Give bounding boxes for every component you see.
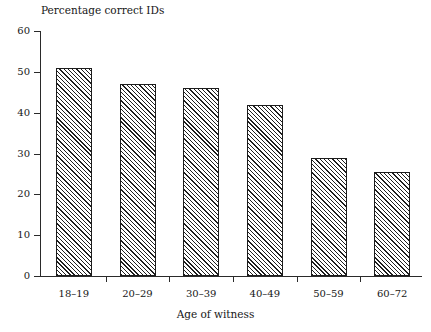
x-axis-tick bbox=[360, 277, 361, 282]
x-axis-category-label: 50–59 bbox=[297, 287, 361, 300]
y-axis-tick-label: 60 bbox=[17, 24, 30, 37]
y-axis-line bbox=[40, 31, 41, 277]
bar bbox=[247, 105, 283, 277]
x-axis-line bbox=[40, 276, 422, 277]
x-axis-category-label: 20–29 bbox=[106, 287, 170, 300]
x-axis-category-label: 18–19 bbox=[42, 287, 106, 300]
bar bbox=[374, 172, 410, 276]
y-axis-tick: 50 bbox=[34, 72, 40, 73]
bar bbox=[120, 84, 156, 276]
plot-area: 0102030405060 18–1920–2930–3940–4950–596… bbox=[40, 31, 422, 277]
y-axis-tick: 60 bbox=[34, 31, 40, 32]
x-axis-tick bbox=[106, 277, 107, 282]
x-axis-category-label: 60–72 bbox=[360, 287, 424, 300]
y-axis-tick-label: 10 bbox=[17, 228, 30, 241]
y-axis-tick: 20 bbox=[34, 194, 40, 195]
x-axis-tick bbox=[233, 277, 234, 282]
x-axis-tick bbox=[169, 277, 170, 282]
y-axis-tick-label: 20 bbox=[17, 187, 30, 200]
bar bbox=[183, 88, 219, 276]
y-axis-tick: 30 bbox=[34, 154, 40, 155]
y-axis-tick-label: 30 bbox=[17, 147, 30, 160]
x-axis-tick bbox=[297, 277, 298, 282]
y-axis-tick: 10 bbox=[34, 235, 40, 236]
y-axis-tick-label: 40 bbox=[17, 106, 30, 119]
bar-chart-figure: Percentage correct IDs 0102030405060 18–… bbox=[0, 0, 431, 332]
chart-title: Percentage correct IDs bbox=[41, 4, 164, 17]
x-axis-title: Age of witness bbox=[0, 308, 431, 321]
y-axis-tick-label: 0 bbox=[24, 269, 30, 282]
y-axis-tick: 0 bbox=[34, 276, 40, 277]
y-axis-tick-label: 50 bbox=[17, 65, 30, 78]
x-axis-category-label: 40–49 bbox=[233, 287, 297, 300]
y-axis-tick: 40 bbox=[34, 113, 40, 114]
bar bbox=[311, 158, 347, 276]
bar bbox=[56, 68, 92, 276]
x-axis-category-label: 30–39 bbox=[169, 287, 233, 300]
